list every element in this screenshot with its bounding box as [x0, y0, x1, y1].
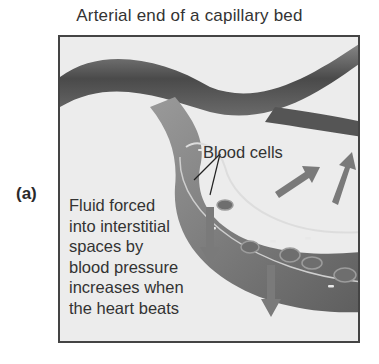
- panel-label: (a): [16, 184, 37, 204]
- fluid-line: Fluid forced: [69, 195, 184, 216]
- arrow-up-right-2: [332, 152, 356, 205]
- fluid-description: Fluid forced into interstitial spaces by…: [69, 195, 184, 318]
- illustration-frame: Blood cells Fluid forced into interstiti…: [58, 35, 360, 343]
- fluid-line: spaces by: [69, 236, 184, 257]
- figure-title: Arterial end of a capillary bed: [0, 6, 379, 26]
- arrow-up-right-1: [275, 166, 320, 198]
- fluid-line: the heart beats: [69, 298, 184, 319]
- right-branch: [265, 107, 360, 137]
- fluid-line: increases when: [69, 277, 184, 298]
- blood-cells-label: Blood cells: [203, 143, 283, 162]
- fluid-line: blood pressure: [69, 257, 184, 278]
- fluid-line: into interstitial: [69, 216, 184, 237]
- upper-vessel: [60, 42, 360, 116]
